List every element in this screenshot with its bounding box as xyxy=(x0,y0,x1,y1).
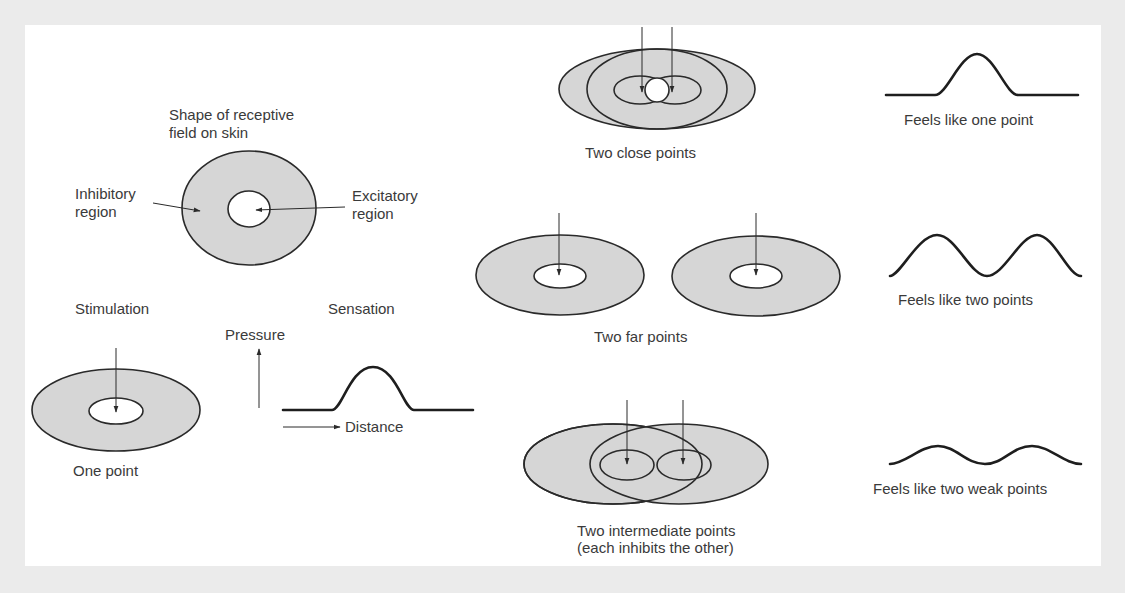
receptive-field-title-line2: field on skin xyxy=(169,124,248,141)
two-close-points-diagram: Two close points xyxy=(559,27,755,161)
two-far-points-diagram: Two far points xyxy=(476,213,840,345)
sensation-heading: Sensation xyxy=(328,300,395,317)
one-point-diagram: Stimulation Sensation One point Pressure… xyxy=(32,300,473,479)
intermediate-caption-line1: Two intermediate points xyxy=(577,522,735,539)
receptive-field-diagram: Shape of receptive field on skin Inhibit… xyxy=(75,106,418,265)
pressure-axis-label: Pressure xyxy=(225,326,285,343)
intermediate-caption-line2: (each inhibits the other) xyxy=(577,539,734,556)
two-points-feel-curve xyxy=(890,235,1081,276)
one-point-feel-curve xyxy=(886,54,1078,95)
far-left-center-shape xyxy=(534,264,586,288)
distance-axis-label: Distance xyxy=(345,418,403,435)
close-caption: Two close points xyxy=(585,144,696,161)
far-caption: Two far points xyxy=(594,328,687,345)
stimulation-heading: Stimulation xyxy=(75,300,149,317)
receptive-field-title-line1: Shape of receptive xyxy=(169,106,294,123)
sensation-column: Feels like one point Feels like two poin… xyxy=(873,54,1081,497)
far-sensation-label: Feels like two points xyxy=(898,291,1033,308)
excitatory-label-line2: region xyxy=(352,205,394,222)
one-point-caption: One point xyxy=(73,462,139,479)
figure-stage: Shape of receptive field on skin Inhibit… xyxy=(0,0,1125,593)
excitatory-label-line1: Excitatory xyxy=(352,187,418,204)
close-overlap-excitatory-shape xyxy=(645,78,669,102)
two-intermediate-points-diagram: Two intermediate points (each inhibits t… xyxy=(524,400,768,556)
intermediate-right-field-shape xyxy=(590,424,768,504)
one-point-sensation-curve xyxy=(283,367,473,410)
excitatory-region-shape xyxy=(228,191,270,227)
inhibitory-label-line1: Inhibitory xyxy=(75,185,136,202)
diagram-canvas: Shape of receptive field on skin Inhibit… xyxy=(0,0,1125,593)
two-weak-points-feel-curve xyxy=(890,446,1081,464)
intermediate-sensation-label: Feels like two weak points xyxy=(873,480,1047,497)
inhibitory-label-line2: region xyxy=(75,203,117,220)
close-sensation-label: Feels like one point xyxy=(904,111,1034,128)
